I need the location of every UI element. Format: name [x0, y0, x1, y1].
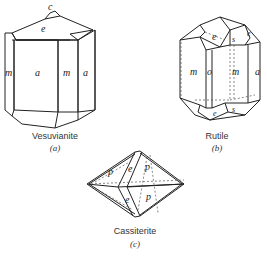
vesuvianite-crystal	[5, 11, 95, 128]
face-label-e: e	[41, 23, 46, 34]
cassiterite-face-label-e-top: e	[128, 163, 133, 174]
sublabel-a: (a)	[10, 143, 100, 153]
caption-vesuvianite: Vesuvianite	[10, 131, 100, 141]
rutile-face-label-s-bottom: s	[232, 105, 235, 114]
rutile-face-label-m-right: m	[232, 66, 239, 77]
rutile-face-label-m-left: m	[190, 66, 197, 77]
cassiterite-face-label-p-left: p	[107, 166, 113, 177]
caption-rutile: Rutile	[172, 131, 262, 141]
face-label-a-front: a	[35, 67, 40, 78]
crystal-drawings: c e m a m a e s e m o m a e	[0, 0, 267, 256]
sublabel-c: (c)	[90, 239, 180, 249]
cassiterite-face-label-e-bottom: e	[125, 194, 130, 205]
rutile-face-label-e-right: e	[247, 29, 251, 38]
caption-cassiterite: Cassiterite	[90, 226, 180, 236]
sublabel-b: (b)	[172, 143, 262, 153]
face-label-m-left: m	[5, 67, 12, 78]
cassiterite-hidden-edges	[87, 155, 184, 213]
face-label-a-right: a	[83, 67, 88, 78]
face-label-c: c	[48, 1, 53, 12]
rutile-face-label-s-top: s	[232, 35, 235, 44]
rutile-face-label-e-bottom: e	[213, 109, 217, 118]
cassiterite-crystal	[87, 151, 184, 217]
rutile-face-label-a: a	[255, 66, 260, 77]
face-label-m-right: m	[63, 67, 70, 78]
cassiterite-face-label-p-top: p	[144, 161, 150, 172]
cassiterite-face-label-p-bottom: p	[145, 191, 151, 202]
rutile-face-label-e-top: e	[212, 31, 217, 42]
rutile-face-label-o: o	[207, 66, 212, 77]
